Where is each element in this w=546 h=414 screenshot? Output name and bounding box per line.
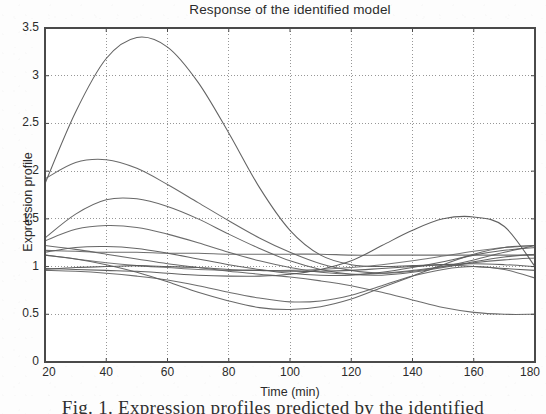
x-axis-tick-label: 40 [86, 365, 126, 379]
x-axis-tick-label: 80 [209, 365, 249, 379]
x-axis-tick-label: 140 [393, 365, 433, 379]
x-axis-tick-label: 160 [454, 365, 494, 379]
y-axis-tick-label: 1.5 [0, 211, 39, 225]
y-axis-tick-label: 3 [0, 68, 39, 82]
x-axis-tick-label: 100 [270, 365, 310, 379]
y-axis-tick-label: 3.5 [0, 20, 39, 34]
x-axis-tick-label: 120 [331, 365, 371, 379]
y-axis-tick-label: 0.5 [0, 306, 39, 320]
figure-caption: Fig. 1. Expression profiles predicted by… [0, 398, 546, 414]
chart-canvas [0, 0, 546, 414]
x-axis-label: Time (min) [45, 385, 535, 399]
x-axis-tick-label: 180 [510, 365, 546, 379]
x-axis-tick-label: 60 [148, 365, 188, 379]
y-axis-tick-label: 2.5 [0, 115, 39, 129]
figure-panel: Response of the identified model Express… [0, 0, 546, 414]
figure-caption-text: Fig. 1. Expression profiles predicted by… [0, 398, 546, 414]
x-axis-tick-label: 20 [29, 365, 69, 379]
y-axis-tick-label: 1 [0, 259, 39, 273]
y-axis-tick-label: 2 [0, 163, 39, 177]
